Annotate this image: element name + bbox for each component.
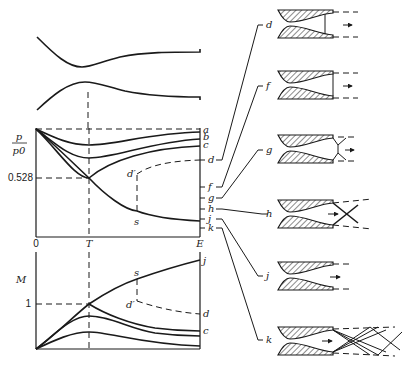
pressure-plot: p p0 0.528 d′ s a b xyxy=(8,124,214,237)
oblique-shocks xyxy=(333,138,338,160)
mach-label-d: d xyxy=(203,308,209,319)
pressure-curve-a xyxy=(36,129,200,145)
mach-label-j: j xyxy=(201,255,206,266)
nozzle-sketch-d: d xyxy=(266,10,358,38)
leader-f xyxy=(216,86,263,187)
pressure-point-s: s xyxy=(134,216,139,227)
leader-k xyxy=(216,228,263,340)
mach-plot: M 1 s d′ j d c xyxy=(15,252,210,349)
curve-label-f: f xyxy=(207,181,214,192)
curve-label-g: g xyxy=(208,192,214,203)
sketch-label-g: g xyxy=(266,144,272,155)
nozzle-upper-wall xyxy=(37,37,200,67)
oblique-shock-1 xyxy=(333,203,358,223)
ylabel-p: p xyxy=(16,131,23,142)
x-label-exit: E xyxy=(195,238,204,249)
leader-lines xyxy=(216,25,268,340)
sketch-label-h: h xyxy=(266,208,272,219)
nozzle-sketch-f: f xyxy=(265,71,358,99)
mach-point-d-prime: d′ xyxy=(126,299,135,310)
nozzle-profile xyxy=(37,37,200,128)
sonic-label: 1 xyxy=(25,298,31,309)
nozzle-flow-diagram: p p0 0.528 d′ s a b xyxy=(0,0,414,366)
curve-label-d: d xyxy=(208,154,214,165)
nozzle-sketch-g: g xyxy=(266,135,358,163)
x-label-origin: 0 xyxy=(33,238,39,249)
pressure-right-ticks xyxy=(200,160,205,228)
curve-label-c: c xyxy=(203,139,209,150)
sketch-label-d: d xyxy=(266,19,272,30)
leader-j xyxy=(216,219,263,276)
leader-h xyxy=(216,209,268,214)
sketch-label-f: f xyxy=(265,80,272,91)
mach-point-s: s xyxy=(134,267,139,278)
ylabel-p0: p0 xyxy=(13,145,26,156)
expansion-waves xyxy=(333,327,402,355)
critical-ratio-label: 0.528 xyxy=(8,172,33,183)
nozzle-sketch-k: k xyxy=(266,327,402,356)
nozzle-lower-wall xyxy=(37,82,200,110)
mach-curve-d xyxy=(137,301,200,314)
pressure-curve-supersonic xyxy=(36,129,200,221)
nozzle-sketch-h: h xyxy=(266,199,372,229)
pressure-point-d-prime: d′ xyxy=(127,168,136,179)
curve-label-k: k xyxy=(208,222,214,233)
oblique-shock-2 xyxy=(333,205,358,225)
ylabel-mach: M xyxy=(15,274,27,285)
x-label-throat: T xyxy=(86,238,94,249)
nozzle-sketch-j: j xyxy=(264,262,352,290)
mach-curve-c-upper xyxy=(89,304,200,331)
mach-label-c: c xyxy=(203,325,209,336)
sketch-label-j: j xyxy=(264,270,269,281)
sketch-label-k: k xyxy=(266,334,272,345)
pressure-curve-d xyxy=(137,160,200,174)
